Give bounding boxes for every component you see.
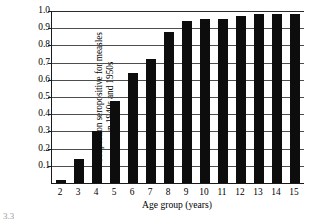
x-axis-tick-label: 10 (195, 186, 213, 199)
bar (182, 21, 192, 183)
y-axis-tick-label: 0.7 (26, 58, 50, 67)
bar-slot (250, 11, 268, 183)
bar (110, 101, 120, 183)
bar-slot (160, 11, 178, 183)
x-axis-tick-label: 4 (87, 186, 105, 199)
y-axis-title: Proportion seropositive for measles in 1… (0, 8, 28, 186)
bar (218, 19, 228, 183)
measles-seropositivity-bar-chart: Proportion seropositive for measles in 1… (0, 0, 311, 223)
bar-slot (232, 11, 250, 183)
y-axis-tick-label: 0.8 (26, 41, 50, 50)
x-axis-tick-label: 8 (159, 186, 177, 199)
x-axis-tick-label: 3 (69, 186, 87, 199)
bar-slot (124, 11, 142, 183)
x-axis-tick-label: 7 (141, 186, 159, 199)
x-axis-tick-label: 14 (267, 186, 285, 199)
x-axis-tick-labels: 23456789101112131415 (51, 186, 303, 199)
bar (146, 59, 156, 183)
bar (128, 73, 138, 183)
y-axis-tick-label: 0.4 (26, 109, 50, 118)
bar-slot (142, 11, 160, 183)
bar (254, 14, 264, 183)
bar (74, 159, 84, 183)
y-axis-tick-label: 0.2 (26, 144, 50, 153)
bar-slot (286, 11, 304, 183)
plot-area (51, 11, 304, 184)
bar-series (52, 11, 304, 183)
bar (56, 180, 66, 183)
bar (236, 16, 246, 183)
y-axis-tick-label: 0.5 (26, 92, 50, 101)
bar (92, 131, 102, 183)
x-axis-tick-label: 6 (123, 186, 141, 199)
x-axis-tick-label: 11 (213, 186, 231, 199)
bar-slot (214, 11, 232, 183)
x-axis-tick-label: 9 (177, 186, 195, 199)
y-axis-tick-labels: 1.00.90.80.70.60.50.40.30.20.1 (26, 0, 50, 223)
bar-slot (52, 11, 70, 183)
y-axis-tick-label: 0.6 (26, 75, 50, 84)
bar (272, 14, 282, 183)
bar-slot (268, 11, 286, 183)
bar-slot (196, 11, 214, 183)
y-axis-tick-label: 0.9 (26, 23, 50, 32)
x-axis-tick-label: 13 (249, 186, 267, 199)
bar (290, 14, 300, 183)
y-axis-tick-label: 1.0 (26, 6, 50, 15)
bar-slot (88, 11, 106, 183)
bar-slot (106, 11, 124, 183)
bar (164, 32, 174, 183)
figure-caption-number: 3.3 (3, 212, 14, 219)
x-axis-tick-label: 12 (231, 186, 249, 199)
x-axis-tick-label: 2 (51, 186, 69, 199)
x-axis-title: Age group (years) (51, 200, 303, 211)
bar-slot (178, 11, 196, 183)
x-axis-tick-label: 15 (285, 186, 303, 199)
bar-slot (70, 11, 88, 183)
y-axis-tick-label: 0.1 (26, 161, 50, 170)
bar (200, 19, 210, 183)
y-axis-tick-label: 0.3 (26, 127, 50, 136)
x-axis-tick-label: 5 (105, 186, 123, 199)
